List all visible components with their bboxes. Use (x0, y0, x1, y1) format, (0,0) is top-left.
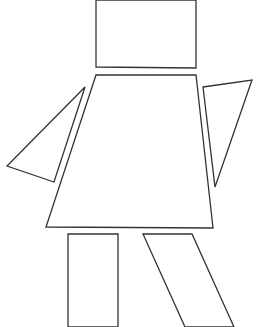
head-square (96, 0, 196, 68)
torso-trapezoid (46, 75, 213, 228)
left-leg-rectangle (68, 234, 118, 327)
right-arm-triangle (203, 80, 252, 187)
tangram-person-figure (0, 0, 266, 327)
right-leg-parallelogram (143, 234, 234, 327)
